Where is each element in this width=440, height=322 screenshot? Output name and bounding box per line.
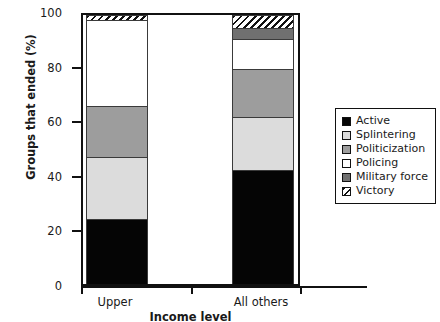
x-axis-label: Income level <box>81 310 300 322</box>
y-tick-label: 0 <box>32 279 62 293</box>
chart-legend: ActiveSplinteringPoliticizationPolicingM… <box>335 108 436 204</box>
y-axis-ticks: 100806040200 <box>20 0 62 322</box>
bar-segment-splintering[interactable] <box>86 157 148 220</box>
legend-label: Politicization <box>356 142 425 156</box>
legend-label: Military force <box>356 170 428 184</box>
legend-label: Active <box>356 114 390 128</box>
y-tick-mark <box>72 121 81 123</box>
bar-segment-policing[interactable] <box>232 39 294 69</box>
chart-figure: Groups that ended (%) 100806040200 Upper… <box>0 0 440 322</box>
y-tick-mark <box>72 67 81 69</box>
legend-item[interactable]: Splintering <box>342 128 428 142</box>
legend-swatch-splintering-icon <box>342 131 351 140</box>
y-tick-mark <box>72 176 81 178</box>
legend-swatch-military-force-icon <box>342 173 351 182</box>
y-tick-label: 20 <box>32 224 62 238</box>
legend-item[interactable]: Policing <box>342 156 428 170</box>
plot-area <box>81 13 300 286</box>
bar-segment-policing[interactable] <box>86 20 148 105</box>
x-tick-mark <box>300 286 302 294</box>
x-axis-line <box>81 286 367 288</box>
y-tick-label: 80 <box>32 61 62 75</box>
x-tick-mark <box>81 286 83 294</box>
bar-segment-splintering[interactable] <box>232 117 294 169</box>
legend-swatch-victory-icon <box>342 187 351 196</box>
legend-label: Policing <box>356 156 398 170</box>
plot-inner <box>83 15 298 284</box>
legend-item[interactable]: Military force <box>342 170 428 184</box>
legend-item[interactable]: Victory <box>342 184 428 198</box>
bar-segment-active[interactable] <box>232 170 294 284</box>
x-tick-label: All others <box>201 295 321 309</box>
x-tick-label: Upper <box>55 295 175 309</box>
bar-segment-military-force[interactable] <box>232 28 294 39</box>
bar-segment-politicization[interactable] <box>232 69 294 117</box>
bar-segment-politicization[interactable] <box>86 106 148 157</box>
legend-label: Splintering <box>356 128 416 142</box>
legend-swatch-politicization-icon <box>342 145 351 154</box>
legend-swatch-policing-icon <box>342 159 351 168</box>
bar-segment-active[interactable] <box>86 219 148 284</box>
y-tick-label: 60 <box>32 115 62 129</box>
y-tick-label: 40 <box>32 170 62 184</box>
y-tick-label: 100 <box>32 6 62 20</box>
bar-upper[interactable] <box>86 15 148 284</box>
legend-swatch-active-icon <box>342 117 351 126</box>
legend-item[interactable]: Active <box>342 114 428 128</box>
x-tick-mark <box>191 286 193 294</box>
bar-all-others[interactable] <box>232 15 294 284</box>
legend-item[interactable]: Politicization <box>342 142 428 156</box>
y-tick-mark <box>72 230 81 232</box>
bar-segment-victory[interactable] <box>232 15 294 28</box>
legend-label: Victory <box>356 184 394 198</box>
